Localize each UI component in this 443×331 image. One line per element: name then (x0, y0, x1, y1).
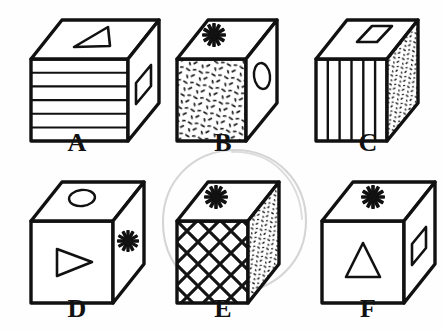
cube-E[interactable] (177, 182, 279, 303)
cube-E-front-face (177, 221, 248, 303)
cube-label-D: D (57, 296, 97, 322)
cube-F[interactable] (322, 182, 435, 303)
figure-sheet: A B C D E F (0, 0, 443, 331)
cube-figure-svg (0, 0, 443, 331)
cube-label-B: B (203, 130, 243, 156)
cube-A[interactable] (31, 20, 159, 141)
cube-label-A: A (57, 130, 97, 156)
cube-C[interactable] (316, 20, 418, 141)
cube-label-C: C (348, 130, 388, 156)
cube-D[interactable] (31, 182, 144, 303)
cube-label-F: F (348, 296, 388, 322)
cube-B[interactable] (177, 20, 277, 141)
cube-label-E: E (203, 296, 243, 322)
cube-B-front-face (177, 59, 246, 141)
